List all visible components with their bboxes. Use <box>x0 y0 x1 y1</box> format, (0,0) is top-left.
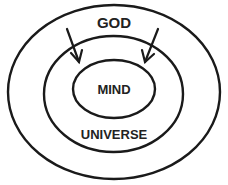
god-label: GOD <box>97 14 131 31</box>
mind-label: MIND <box>97 82 130 97</box>
nested-ellipse-diagram: GOD MIND UNIVERSE <box>0 0 228 185</box>
universe-label: UNIVERSE <box>81 127 148 142</box>
